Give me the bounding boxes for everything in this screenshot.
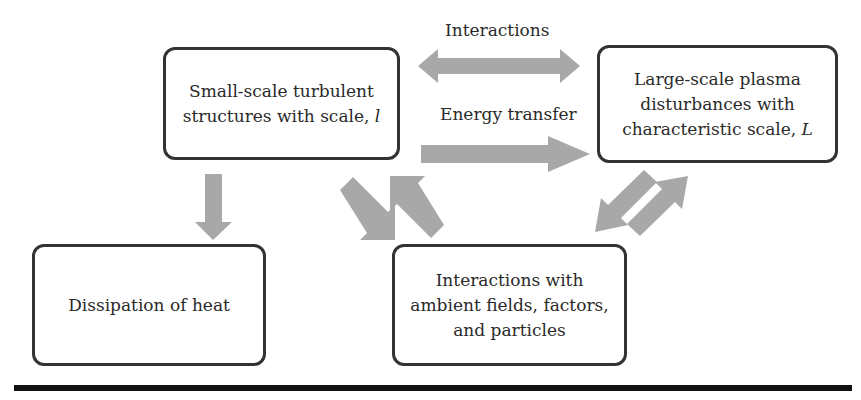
- node-text: Interactions with: [410, 268, 608, 293]
- energy-transfer-arrow: [421, 136, 590, 172]
- small-scale-structures-node: Small-scale turbulent structures with sc…: [163, 47, 400, 160]
- node-text: Small-scale turbulent: [183, 79, 381, 104]
- node-text: structures with scale, l: [183, 104, 381, 129]
- scale-symbol: L: [802, 119, 813, 139]
- node-text: Large-scale plasma: [622, 67, 813, 92]
- dissipation-of-heat-node: Dissipation of heat: [32, 244, 266, 366]
- node-text: characteristic scale, L: [622, 117, 813, 142]
- ambient-interactions-node: Interactions with ambient fields, factor…: [392, 244, 627, 366]
- node-text: and particles: [410, 318, 608, 343]
- interactions-label: Interactions: [445, 20, 550, 40]
- bottom-rule-divider: [14, 385, 852, 391]
- node-text: Dissipation of heat: [68, 293, 230, 318]
- small-to-ambient-arrow: [340, 177, 395, 240]
- node-text: ambient fields, factors,: [410, 293, 608, 318]
- interactions-double-arrow: [418, 49, 580, 83]
- node-text: disturbances with: [622, 92, 813, 117]
- energy-transfer-label: Energy transfer: [440, 104, 577, 124]
- dissipation-down-arrow: [195, 174, 232, 240]
- scale-symbol: l: [375, 106, 380, 126]
- ambient-to-small-arrow: [390, 176, 444, 238]
- large-scale-disturbances-node: Large-scale plasma disturbances with cha…: [597, 45, 838, 163]
